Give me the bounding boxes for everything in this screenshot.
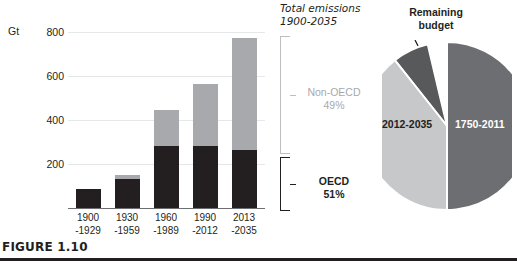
x-label-2013-2035: 2013 -2035 (218, 212, 270, 237)
remaining-budget-line1: Remaining (388, 6, 484, 19)
x-label-line1: 2013 (218, 212, 270, 225)
bar-segment-oecd (76, 189, 101, 208)
non-oecd-legend-label: Non-OECD 49% (298, 86, 370, 112)
bar-1930-1959[interactable] (115, 175, 140, 208)
y-tick-600: 600 (20, 71, 64, 82)
bar-2013-2035[interactable] (232, 38, 257, 208)
bracket-nub (290, 184, 296, 185)
bar-segment-oecd (193, 146, 218, 208)
plot-area: 1900 -1929 1930 -1959 1960 -1989 1990 -2… (68, 0, 268, 209)
bar-segment-oecd (115, 179, 140, 208)
bar-segment-non-oecd (193, 84, 218, 147)
non-oecd-percent: 49% (298, 99, 370, 112)
total-emissions-line1: Total emissions (280, 2, 360, 15)
bar-1900-1929[interactable] (76, 189, 101, 208)
bar-segment-oecd (232, 150, 257, 208)
bracket-nub (290, 95, 296, 96)
oecd-name: OECD (298, 175, 370, 188)
figure-caption-text: FIGURE 1.10 (2, 240, 88, 254)
x-label-line2: -2035 (218, 225, 270, 238)
bar-1990-2012[interactable] (193, 84, 218, 208)
pie-label-2012-2035: 2012-2035 (382, 118, 432, 130)
total-emissions-line2: 1900-2035 (280, 15, 360, 28)
remaining-budget-line2: budget (388, 19, 484, 32)
pie-chart: Remaining budget 1750-2011 2012-2035 (376, 0, 517, 220)
bar-segment-oecd (154, 146, 179, 208)
y-tick-200: 200 (20, 159, 64, 170)
bar-chart: Gt 800 600 400 200 (0, 0, 280, 235)
gridline-800 (68, 32, 265, 33)
figure-container: Gt 800 600 400 200 (0, 0, 517, 269)
y-axis-unit-label: Gt (8, 25, 19, 37)
remaining-budget-callout: Remaining budget (388, 6, 484, 32)
oecd-percent: 51% (298, 188, 370, 201)
bar-segment-non-oecd (232, 38, 257, 150)
bar-segment-non-oecd (154, 110, 179, 146)
y-tick-400: 400 (20, 115, 64, 126)
non-oecd-name: Non-OECD (298, 86, 370, 99)
caption-rule (0, 258, 517, 261)
bracket-non-oecd (280, 36, 290, 154)
bracket-oecd (280, 157, 290, 211)
bar-1960-1989[interactable] (154, 110, 179, 208)
y-axis-ticks: 800 600 400 200 (20, 0, 64, 235)
pie-label-1750-2011: 1750-2011 (455, 118, 505, 130)
oecd-legend-label: OECD 51% (298, 175, 370, 201)
bracket-annotations: Total emissions 1900-2035 Non-OECD 49% O… (272, 0, 382, 215)
total-emissions-label: Total emissions 1900-2035 (280, 2, 360, 28)
y-tick-800: 800 (20, 27, 64, 38)
